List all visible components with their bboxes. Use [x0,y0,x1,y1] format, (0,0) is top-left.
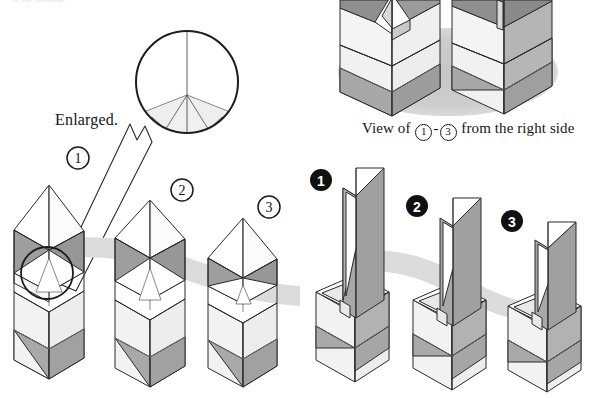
step-badge-outline-3-label: 3 [266,200,273,215]
step-badge-solid-3: 3 [501,210,523,232]
step-badge-solid-1-label: 1 [317,173,325,189]
step-badge-solid-2: 2 [406,195,428,217]
enlarged-label: Enlarged. [55,112,118,128]
step-badge-solid-2-label: 2 [413,199,421,215]
origami-model-step-2 [115,200,185,387]
step-badge-outline-1-label: 1 [75,151,82,166]
origami-model-step-3 [208,218,277,387]
cut-off-top-text: to the bottom. [12,0,65,4]
step-badge-outline-1: 1 [67,147,89,169]
step-badge-outline-2: 2 [171,179,193,201]
caption-circle-1: 1 [415,124,432,141]
caption-prefix: View of [362,120,414,136]
caption-dash: - [433,120,438,136]
step-badge-solid-3-label: 3 [508,214,516,230]
enlarged-detail-circle [134,29,240,135]
right-view-caption: View of 1-3 from the right side [362,121,574,141]
diagram-canvas: 1 2 3 1 2 3 [0,0,589,398]
caption-circle-3: 3 [440,124,457,141]
step-badge-solid-1: 1 [310,169,332,191]
caption-suffix: from the right side [458,120,575,136]
step-badge-outline-2-label: 2 [179,183,186,198]
origami-solid-model-1 [316,168,389,382]
origami-solid-model-2 [413,198,486,390]
origami-diagram-page: 1 2 3 1 2 3 to the bottom. Enlarged. Vie… [0,0,589,398]
step-badge-outline-3: 3 [258,196,280,218]
origami-solid-model-3 [508,222,581,392]
